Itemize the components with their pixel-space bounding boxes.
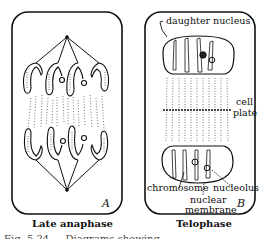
interzonal-fibers — [28, 95, 104, 130]
label-daughter-nucleus: daughter nucleus — [166, 16, 250, 26]
figure-caption: Fig. 5.24 — Diagrams showing ... — [4, 233, 173, 239]
label-chromosome: chromosome — [147, 183, 209, 193]
panel-a-border — [12, 12, 122, 214]
label-cell-plate-line2: plate — [233, 108, 257, 118]
spindle-fibers-top — [36, 37, 99, 63]
bottom-nucleolus-2 — [204, 165, 210, 171]
chromosomes-top — [24, 63, 109, 96]
bottom-nucleus-chromosomes — [172, 150, 210, 180]
spindle-pole-top — [66, 36, 69, 39]
panel-a-title: Late anaphase — [32, 218, 113, 229]
spindle-pole-bottom — [66, 189, 69, 192]
label-cell-plate-line1: cell — [236, 97, 253, 107]
label-nucleolus: nucleolus — [213, 183, 259, 193]
top-nucleolus — [200, 52, 206, 58]
panel-a-diagram — [12, 12, 122, 214]
chromosomes-bottom — [24, 126, 107, 160]
panel-a-letter: A — [102, 197, 110, 210]
top-nucleus-chromosomes — [173, 38, 213, 72]
panel-b-title: Telophase — [176, 218, 232, 229]
panel-b-letter: B — [237, 197, 245, 210]
label-nuclear-membrane-line2: membrane — [185, 205, 237, 215]
chromatid-stipple-bottom — [28, 132, 104, 152]
spindle-fibers-bottom — [36, 160, 99, 190]
